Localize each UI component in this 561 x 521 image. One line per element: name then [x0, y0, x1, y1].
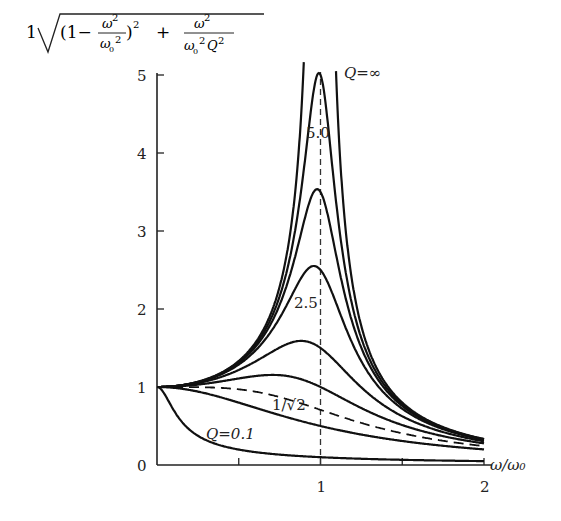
y-tick-label: 5 — [137, 67, 147, 85]
label-q-inv-sqrt2: 1/√2 — [272, 396, 306, 414]
y-tick-label: 0 — [137, 457, 147, 475]
y-tick-label: 3 — [137, 223, 147, 241]
label-q-0-1: Q=0.1 — [206, 425, 255, 443]
label-q-inf: Q=∞ — [344, 64, 381, 82]
curve-labels: Q=∞ 5.0 2.5 1/√2 Q=0.1 ω/ω₀ — [206, 64, 526, 474]
label-q-2-5: 2.5 — [294, 294, 318, 312]
y-tick-label: 4 — [137, 145, 147, 163]
curve-q-inf — [157, 62, 304, 387]
x-tick-label: 1 — [317, 478, 327, 496]
x-axis-label: ω/ω₀ — [490, 456, 526, 474]
x-tick-label: 2 — [480, 478, 490, 496]
y-tick-label: 1 — [137, 379, 147, 397]
resonance-chart: 01234512 Q=∞ 5.0 2.5 1/√2 Q=0.1 ω/ω₀ — [0, 0, 561, 521]
y-tick-label: 2 — [137, 301, 147, 319]
label-q-5: 5.0 — [306, 124, 330, 142]
